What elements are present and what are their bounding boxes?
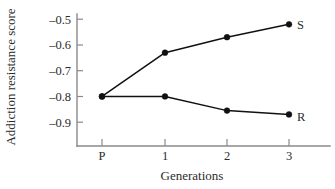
series-line-s bbox=[102, 24, 289, 96]
data-series-layer bbox=[99, 21, 292, 117]
x-tick-label: 1 bbox=[162, 149, 168, 163]
x-tick-label: 2 bbox=[224, 149, 230, 163]
x-axis-ticks bbox=[102, 139, 289, 146]
x-axis-tick-labels: P 1 2 3 bbox=[99, 149, 293, 163]
y-axis-title: Addiction resistance score bbox=[3, 8, 18, 145]
series-s bbox=[99, 21, 292, 99]
series-label-s: S bbox=[297, 18, 304, 32]
data-point[interactable] bbox=[162, 50, 168, 56]
data-point[interactable] bbox=[162, 94, 168, 100]
data-point[interactable] bbox=[286, 112, 292, 118]
y-tick-label: –0.9 bbox=[48, 116, 71, 130]
data-point[interactable] bbox=[224, 34, 230, 40]
y-axis-tick-labels: –0.5 –0.6 –0.7 –0.8 –0.9 bbox=[48, 13, 71, 130]
x-tick-label: P bbox=[99, 149, 106, 163]
y-tick-label: –0.6 bbox=[48, 38, 71, 52]
series-line-r bbox=[102, 96, 289, 114]
y-tick-label: –0.7 bbox=[48, 64, 71, 78]
y-axis-ticks bbox=[77, 19, 83, 122]
line-chart: Addiction resistance score –0.5 –0.6 –0.… bbox=[0, 0, 335, 189]
series-label-r: R bbox=[297, 110, 306, 124]
data-point[interactable] bbox=[224, 108, 230, 114]
chart-figure: Addiction resistance score –0.5 –0.6 –0.… bbox=[0, 0, 335, 189]
y-tick-label: –0.5 bbox=[48, 13, 71, 27]
data-point[interactable] bbox=[286, 21, 292, 27]
x-axis-title: Generations bbox=[161, 168, 224, 183]
y-tick-label: –0.8 bbox=[48, 90, 71, 104]
series-r bbox=[99, 94, 292, 118]
data-point[interactable] bbox=[99, 94, 105, 100]
x-tick-label: 3 bbox=[286, 149, 292, 163]
